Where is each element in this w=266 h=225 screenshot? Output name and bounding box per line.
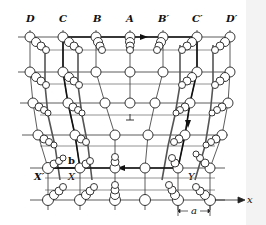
x-axis-arrow [215,197,245,203]
column-label-b: B [93,14,101,24]
column-label-d-prime: D′ [226,14,237,24]
point-label-x-prime: X′ [34,172,44,182]
axis-label-x: x [247,195,253,205]
point-label-y: Y [188,172,195,182]
point-label-x: X [68,172,75,182]
burgers-vector-label: b [68,156,75,166]
arrow-right-icon [140,34,148,40]
column-label-c-prime: C′ [192,14,203,24]
arrow-right-icon [238,197,245,203]
spacing-label: a [191,206,197,216]
column-label-c: C [59,14,67,24]
dislocation-lattice-diagram [0,0,266,225]
column-label-d: D [26,14,35,24]
column-label-a: A [126,14,134,24]
lattice-lines [18,30,232,210]
column-label-b-prime: B′ [158,14,169,24]
